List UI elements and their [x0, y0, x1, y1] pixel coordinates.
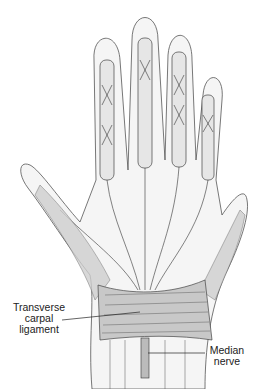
label-line: ligament: [8, 324, 70, 335]
label-median-nerve: Median nerve: [200, 345, 254, 367]
middle-finger-sheath: [138, 38, 152, 168]
index-finger-sheath: [100, 60, 114, 180]
label-line: nerve: [200, 356, 254, 367]
little-finger-sheath: [202, 95, 214, 180]
ring-finger-sheath: [172, 52, 186, 167]
median-nerve-shape: [141, 338, 149, 378]
label-transverse-carpal-ligament: Transverse carpal ligament: [8, 302, 70, 335]
